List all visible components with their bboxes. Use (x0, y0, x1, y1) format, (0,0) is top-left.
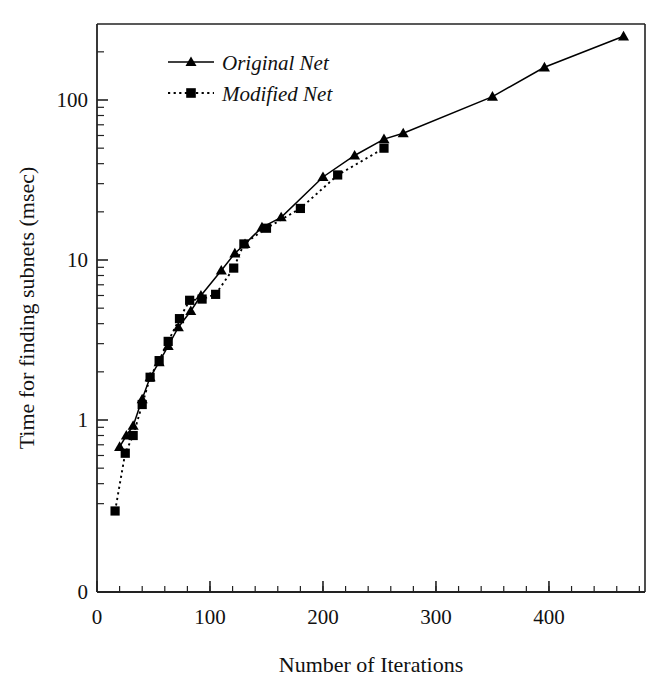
data-point-triangle (539, 62, 550, 72)
data-point-square (211, 290, 220, 299)
data-point-square (186, 88, 196, 98)
data-point-square (296, 204, 305, 213)
series-line (120, 36, 624, 447)
legend-label-1: Original Net (222, 51, 330, 75)
data-point-triangle (128, 420, 139, 430)
y-tick-label: 100 (57, 88, 89, 112)
data-point-triangle (185, 305, 196, 315)
x-tick-label: 100 (194, 605, 226, 629)
data-point-square (333, 170, 342, 179)
chart-legend: Original NetModified Net (168, 51, 333, 106)
series-line (115, 148, 384, 511)
x-axis-title: Number of Iterations (279, 652, 464, 677)
data-point-square (129, 431, 138, 440)
y-tick-label: 1 (78, 408, 89, 432)
data-series-layer (110, 31, 629, 516)
data-point-square (138, 400, 147, 409)
x-tick-label: 0 (92, 605, 103, 629)
data-point-triangle (349, 150, 360, 160)
data-point-square (229, 263, 238, 272)
data-point-square (146, 373, 155, 382)
data-point-square (164, 337, 173, 346)
x-tick-label: 200 (307, 605, 339, 629)
x-tick-label: 400 (533, 605, 565, 629)
data-point-square (185, 296, 194, 305)
x-axis-tick-labels: 0100200300400 (92, 605, 565, 629)
data-point-square (262, 224, 271, 233)
y-origin-tick-label: 0 (78, 580, 89, 604)
y-axis-tick-labels: 1101000 (57, 88, 89, 604)
data-point-square (155, 356, 164, 365)
chart-svg: 1101000 0100200300400 Original NetModifi… (0, 0, 668, 687)
data-point-triangle (317, 172, 328, 182)
chart-figure: 1101000 0100200300400 Original NetModifi… (0, 0, 668, 687)
data-point-square (121, 449, 130, 458)
x-tick-label: 300 (420, 605, 452, 629)
data-point-triangle (487, 91, 498, 101)
legend-label-2: Modified Net (221, 82, 333, 106)
data-point-square (379, 144, 388, 153)
y-axis-title: Time for finding subnets (msec) (14, 167, 39, 450)
y-axis-ticks (97, 52, 108, 592)
data-point-triangle (618, 31, 629, 41)
x-axis-ticks (97, 581, 639, 592)
series-modified-net (110, 144, 388, 516)
data-point-triangle (398, 128, 409, 138)
data-point-square (197, 294, 206, 303)
y-tick-label: 10 (67, 248, 88, 272)
data-point-square (175, 314, 184, 323)
data-point-square (239, 239, 248, 248)
plot-frame (97, 24, 645, 592)
data-point-square (110, 506, 119, 515)
